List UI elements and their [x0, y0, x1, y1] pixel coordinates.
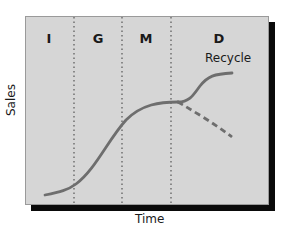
stage-label-decline: D — [214, 31, 225, 46]
stage-label-introduction: I — [47, 31, 52, 46]
stage-label-growth: G — [93, 31, 104, 46]
decline-curve — [178, 102, 232, 137]
stage-label-maturity: M — [140, 31, 153, 46]
x-axis-label: Time — [135, 212, 164, 226]
sales-curve — [45, 102, 178, 195]
recycle-annotation: Recycle — [205, 51, 251, 65]
recycle-curve — [178, 73, 232, 102]
y-axis-label: Sales — [4, 84, 18, 116]
